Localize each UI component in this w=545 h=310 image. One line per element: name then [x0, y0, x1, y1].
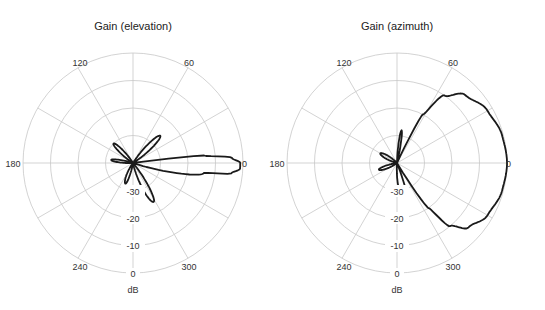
elevation-title: Gain (elevation) — [94, 20, 172, 32]
radial-label-minus10: -10 — [390, 241, 403, 251]
angle-label-240: 240 — [72, 262, 87, 272]
angle-label-180: 180 — [269, 159, 284, 169]
radial-label-0: 0 — [394, 269, 399, 279]
azimuth-polar-plot: Gain (azimuth) 0 60 120 180 240 300 -30 … — [264, 0, 545, 310]
angle-spoke — [302, 163, 397, 218]
angle-label-0: 0 — [506, 159, 511, 169]
elevation-plot-svg: Gain (elevation) 0 60 120 180 240 300 -3… — [0, 0, 272, 310]
angle-label-240: 240 — [336, 262, 351, 272]
elevation-angle-labels: 0 60 120 180 240 300 — [5, 58, 247, 272]
angle-spoke — [397, 68, 452, 163]
radial-label-minus20: -20 — [390, 214, 403, 224]
radial-unit-label: dB — [391, 285, 402, 295]
angle-spoke — [397, 163, 492, 218]
angle-label-60: 60 — [448, 58, 458, 68]
angle-label-60: 60 — [184, 58, 194, 68]
radial-label-minus20: -20 — [126, 214, 139, 224]
angle-spoke — [133, 68, 188, 163]
angle-label-300: 300 — [181, 262, 196, 272]
azimuth-plot-svg: Gain (azimuth) 0 60 120 180 240 300 -30 … — [264, 0, 545, 310]
azimuth-gain-curve — [379, 94, 507, 229]
angle-label-300: 300 — [445, 262, 460, 272]
azimuth-title: Gain (azimuth) — [361, 20, 433, 32]
angle-spoke — [38, 108, 133, 163]
elevation-polar-plot: Gain (elevation) 0 60 120 180 240 300 -3… — [0, 0, 272, 310]
angle-spoke — [133, 108, 228, 163]
radial-unit-label: dB — [127, 285, 138, 295]
radial-label-minus10: -10 — [126, 241, 139, 251]
angle-label-120: 120 — [336, 58, 351, 68]
angle-spoke — [302, 108, 397, 163]
angle-spoke — [38, 163, 133, 218]
angle-spoke — [342, 68, 397, 163]
radial-label-minus30: -30 — [126, 187, 139, 197]
angle-label-0: 0 — [242, 159, 247, 169]
angle-spoke — [133, 163, 228, 218]
angle-label-120: 120 — [72, 58, 87, 68]
radial-label-minus30: -30 — [390, 187, 403, 197]
angle-label-180: 180 — [5, 159, 20, 169]
angle-spoke — [78, 68, 133, 163]
radial-label-0: 0 — [130, 269, 135, 279]
